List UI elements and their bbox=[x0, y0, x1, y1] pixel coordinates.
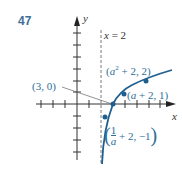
x-axis-label: x bbox=[172, 110, 177, 122]
x-axis-arrow-icon bbox=[166, 101, 176, 107]
point-label-a2-plus-2: (a2 + 2, 2) bbox=[106, 64, 151, 77]
leader-line bbox=[62, 87, 112, 104]
graph-figure: 47 y x x = 2 (3, 0) (a2 + 2, 2) (a + 2, … bbox=[0, 0, 182, 170]
y-axis-arrow-icon bbox=[74, 16, 80, 26]
point-3-0 bbox=[111, 102, 116, 107]
point-1-over-a bbox=[103, 115, 108, 120]
x-axis bbox=[36, 100, 168, 108]
point-label-a-plus-2: (a + 2, 1) bbox=[127, 89, 168, 101]
point-label-1-over-a: (1a + 2, −1) bbox=[104, 124, 157, 147]
asymptote-label: x = 2 bbox=[104, 29, 126, 41]
point-a-plus-2 bbox=[122, 92, 127, 97]
problem-number: 47 bbox=[18, 14, 31, 28]
log-curve bbox=[102, 70, 172, 164]
point-a2-plus-2 bbox=[144, 79, 149, 84]
point-label-3-0: (3, 0) bbox=[32, 80, 56, 92]
y-axis-label: y bbox=[83, 12, 88, 24]
